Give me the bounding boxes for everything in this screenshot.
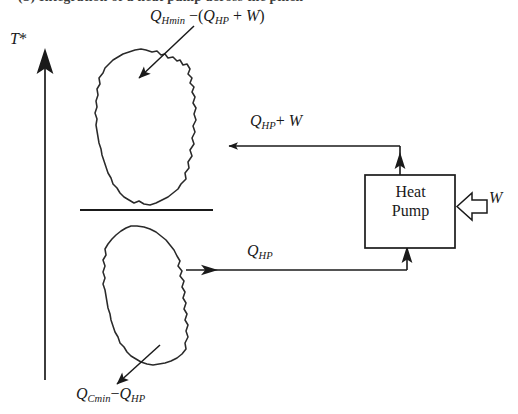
label-work-input: W (489, 190, 502, 206)
cold-composite-curve (103, 226, 188, 365)
label-top-heat-sub: Hmin (162, 15, 185, 26)
work-input-block-arrow (457, 193, 487, 220)
label-bottom-heat-q2: Q (119, 385, 131, 402)
label-upper-stream-q: Q (250, 112, 262, 129)
label-top-heat-q: Q (150, 7, 162, 24)
label-upper-stream-w: W (289, 112, 302, 129)
label-lower-stream-q: Q (247, 242, 259, 259)
label-bottom-heat-q: Q (76, 385, 88, 402)
label-top-heat-plus: + (233, 7, 242, 24)
label-bottom-heat-sub2: HP (131, 393, 145, 404)
label-bottom-heat: QCmin−QHP (76, 386, 145, 405)
label-upper-stream-sub: HP (262, 120, 276, 131)
heat-pump-label-line1: Heat (366, 183, 455, 202)
label-top-heat-close: ) (259, 7, 264, 24)
heat-pump-inlet-arrow-up (402, 246, 413, 270)
axis-label-t: T (10, 30, 19, 47)
label-top-heat-q2: Q (203, 7, 215, 24)
label-upper-stream-plus: + (276, 112, 285, 129)
heat-pump-outlet-arrow-up (395, 146, 406, 175)
axis-label-tstar: T* (10, 31, 27, 47)
label-top-heat-minus: − (189, 7, 198, 24)
heat-pump-label: Heat Pump (366, 183, 455, 220)
heat-pump-label-line2: Pump (366, 202, 455, 221)
temperature-axis-arrow (37, 48, 54, 380)
axis-label-star: * (19, 30, 27, 47)
label-bottom-heat-sub: Cmin (88, 393, 111, 404)
arrow-to-hot-curve (139, 26, 194, 78)
heat-absorbed-arrow-right (186, 265, 407, 275)
label-top-heat-w: W (246, 7, 259, 24)
label-top-heat: QHmin −(QHP + W) (150, 8, 265, 27)
heat-pump-pinch-diagram: (b) Integration of a heat pump across th… (0, 0, 518, 414)
label-top-heat-sub2: HP (215, 15, 229, 26)
label-upper-stream: QHP+ W (250, 113, 302, 132)
label-lower-stream: QHP (247, 243, 273, 262)
label-lower-stream-sub: HP (259, 250, 273, 261)
